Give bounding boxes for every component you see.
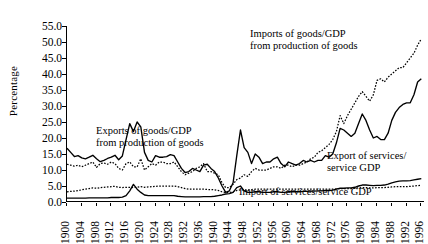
- x-axis-tick-label: 1900: [59, 202, 71, 244]
- annotation-import-services: Import of services/service GDP: [239, 186, 372, 198]
- x-axis-tick-mark: [66, 203, 67, 206]
- x-axis-tick-label: 1968: [310, 202, 322, 244]
- x-axis-tick-mark: [376, 203, 377, 206]
- y-axis-tick-label: 35.0: [16, 85, 62, 95]
- x-axis-tick-label: 1928: [162, 202, 174, 244]
- annotation-exports-goods: Exports of goods/GDP from production of …: [96, 125, 204, 148]
- x-axis-tick-label: 1988: [384, 202, 396, 244]
- annotation-imports-goods: Imports of goods/GDP from production of …: [250, 28, 358, 51]
- x-axis-tick-mark: [287, 203, 288, 206]
- x-axis-tick-label: 1980: [354, 202, 366, 244]
- x-axis-tick-label: 1956: [266, 202, 278, 244]
- annotation-exports-goods-line2: from production of goods: [96, 137, 204, 149]
- x-axis-tick-label: 1976: [339, 202, 351, 244]
- x-axis-tick-label: 1904: [74, 202, 86, 244]
- x-axis-tick-mark: [391, 203, 392, 206]
- annotation-export-services-line2: service GDP: [327, 162, 406, 174]
- y-axis-tick-label: 50.0: [16, 37, 62, 47]
- x-axis-tick-mark: [199, 203, 200, 206]
- x-axis-tick-label: 1948: [236, 202, 248, 244]
- y-axis-tick-label: 0.0: [16, 197, 62, 207]
- x-axis-tick-mark: [332, 203, 333, 206]
- x-axis-tick-mark: [140, 203, 141, 206]
- y-axis-tick-label: 25.0: [16, 117, 62, 127]
- x-axis-tick-label: 1912: [103, 202, 115, 244]
- annotation-imports-goods-line2: from production of goods: [250, 40, 358, 52]
- y-axis-tick-label: 20.0: [16, 133, 62, 143]
- x-axis-tick-mark: [125, 203, 126, 206]
- x-axis-tick-label: 1960: [280, 202, 292, 244]
- x-axis-tick-label: 1996: [413, 202, 425, 244]
- x-axis-tick-label: 1908: [89, 202, 101, 244]
- x-axis-tick-label: 1932: [177, 202, 189, 244]
- y-axis-tick-label: 30.0: [16, 101, 62, 111]
- x-axis-tick-mark: [155, 203, 156, 206]
- x-axis-tick-mark: [346, 203, 347, 206]
- x-axis-tick-mark: [243, 203, 244, 206]
- x-axis-tick-label: 1944: [221, 202, 233, 244]
- series-lines: [67, 26, 425, 202]
- x-axis-tick-mark: [361, 203, 362, 206]
- y-axis-tick-label: 15.0: [16, 149, 62, 159]
- annotation-imports-goods-line1: Imports of goods/GDP: [250, 28, 358, 40]
- x-axis-tick-label: 1936: [192, 202, 204, 244]
- annotation-exports-goods-line1: Exports of goods/GDP: [96, 125, 204, 137]
- x-axis-tick-label: 1916: [118, 202, 130, 244]
- y-axis-tick-label: 45.0: [16, 53, 62, 63]
- y-axis-tick-label: 55.0: [16, 21, 62, 31]
- x-axis-tick-mark: [317, 203, 318, 206]
- x-axis-tick-mark: [258, 203, 259, 206]
- x-axis-tick-label: 1952: [251, 202, 263, 244]
- x-axis-tick-label: 1992: [399, 202, 411, 244]
- x-axis-tick-mark: [96, 203, 97, 206]
- x-axis-tick-mark: [420, 203, 421, 206]
- x-axis-tick-mark: [184, 203, 185, 206]
- x-axis-tick-label: 1984: [369, 202, 381, 244]
- x-axis-tick-label: 1972: [325, 202, 337, 244]
- x-axis-tick-mark: [110, 203, 111, 206]
- x-axis-tick-mark: [302, 203, 303, 206]
- x-axis-tick-mark: [406, 203, 407, 206]
- x-axis-tick-label: 1920: [133, 202, 145, 244]
- x-axis-tick-label: 1964: [295, 202, 307, 244]
- y-axis-tick-label: 40.0: [16, 69, 62, 79]
- annotation-export-services-line1: Export of services/: [327, 150, 406, 162]
- x-axis-tick-labels: 1900190419081912191619201924192819321936…: [66, 203, 424, 244]
- plot-area: [66, 26, 424, 202]
- x-axis-tick-label: 1924: [148, 202, 160, 244]
- y-axis-tick-labels: 0.05.010.015.020.025.030.035.040.045.050…: [12, 0, 62, 244]
- x-axis-tick-label: 1940: [207, 202, 219, 244]
- x-axis-tick-mark: [228, 203, 229, 206]
- x-axis-tick-mark: [169, 203, 170, 206]
- y-axis-tick-label: 5.0: [16, 181, 62, 191]
- x-axis-tick-mark: [81, 203, 82, 206]
- x-axis-tick-mark: [273, 203, 274, 206]
- annotation-export-services: Export of services/ service GDP: [327, 150, 406, 173]
- chart-container: Percentage 0.05.010.015.020.025.030.035.…: [0, 0, 428, 244]
- x-axis-tick-mark: [214, 203, 215, 206]
- y-axis-tick-label: 10.0: [16, 165, 62, 175]
